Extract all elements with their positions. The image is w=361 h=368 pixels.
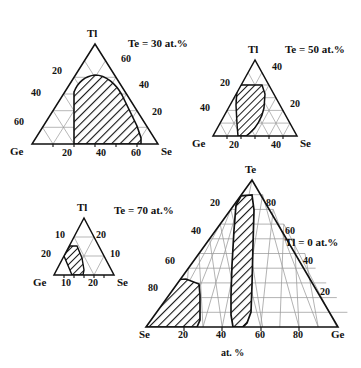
tick-bottom-40-te50: 40 (271, 140, 281, 150)
vertex-label-tl-te50: Tl (248, 44, 258, 55)
tick-right-20-tl0: 20 (320, 287, 330, 297)
glass-region-te50 (236, 85, 265, 136)
ternary-diagrams-canvas (0, 0, 361, 368)
tick-right-80-tl0: 80 (266, 198, 276, 208)
tick-bottom-20-te70: 20 (88, 278, 98, 288)
condition-label-te30: Te = 30 at.% (128, 38, 188, 49)
condition-label-te50: Te = 50 at.% (285, 44, 345, 55)
tick-right-20-te70: 20 (96, 230, 106, 240)
tick-right-40-tl0: 40 (303, 256, 313, 266)
tick-left-20-tl0: 20 (210, 198, 220, 208)
tick-left-80-tl0: 80 (148, 283, 158, 293)
tick-left-10-te70: 10 (55, 230, 65, 240)
tick-bottom-60-tl0: 60 (255, 330, 265, 340)
vertex-label-se-te70: Se (117, 277, 128, 288)
tick-bottom-40-te30: 40 (96, 148, 106, 158)
tick-bottom-20-tl0: 20 (178, 330, 188, 340)
tick-left-40-te50: 40 (200, 103, 210, 113)
tick-right-60-tl0: 60 (285, 226, 295, 236)
axis-caption-at-percent: at. % (221, 348, 244, 358)
panel-te70-graphic (54, 218, 114, 278)
tick-right-10-te70: 10 (110, 249, 120, 259)
condition-label-tl0: Tl = 0 at.% (285, 237, 338, 248)
tick-bottom-40-tl0: 40 (216, 330, 226, 340)
tick-right-40-te30: 40 (139, 80, 149, 90)
tick-left-20-te50: 20 (220, 78, 230, 88)
tick-left-20-te30: 20 (52, 66, 62, 76)
tick-left-60-te30: 60 (14, 117, 24, 127)
tick-right-60-te30: 60 (121, 54, 131, 64)
tick-left-60-tl0: 60 (165, 256, 175, 266)
vertex-label-ge-te30: Ge (10, 146, 23, 157)
tick-bottom-20-te50: 20 (229, 140, 239, 150)
vertex-label-tl-te70: Tl (77, 202, 87, 213)
tick-bottom-10-te70: 10 (61, 278, 71, 288)
tick-bottom-80-tl0: 80 (293, 330, 303, 340)
vertex-label-te-tl0: Te (245, 164, 256, 175)
figure-root: Tl Ge Se 20 40 60 60 40 20 20 40 60 Te =… (0, 0, 361, 368)
tick-right-20-te50: 20 (290, 99, 300, 109)
vertex-label-se-te30: Se (161, 146, 172, 157)
tick-left-20-te70: 20 (41, 249, 51, 259)
tick-bottom-20-te30: 20 (62, 148, 72, 158)
vertex-label-se-te50: Se (300, 138, 311, 149)
vertex-label-ge-tl0: Ge (331, 329, 344, 340)
glass-region-te30 (74, 75, 141, 144)
panel-te50-graphic (213, 60, 297, 139)
vertex-label-ge-te70: Ge (33, 277, 46, 288)
vertex-label-ge-te50: Ge (192, 138, 205, 149)
tick-left-40-tl0: 40 (191, 226, 201, 236)
tick-left-40-te30: 40 (31, 88, 41, 98)
panel-te30-graphic (32, 44, 158, 147)
panel-tl0-graphic (146, 180, 347, 331)
tick-right-40-te50: 40 (272, 62, 282, 72)
vertex-label-se-tl0: Se (139, 329, 150, 340)
tick-right-20-te30: 20 (152, 107, 162, 117)
glass-region-band (231, 195, 254, 327)
vertex-label-tl-te30: Tl (87, 28, 97, 39)
condition-label-te70: Te = 70 at.% (114, 205, 174, 216)
tick-bottom-60-te30: 60 (131, 148, 141, 158)
